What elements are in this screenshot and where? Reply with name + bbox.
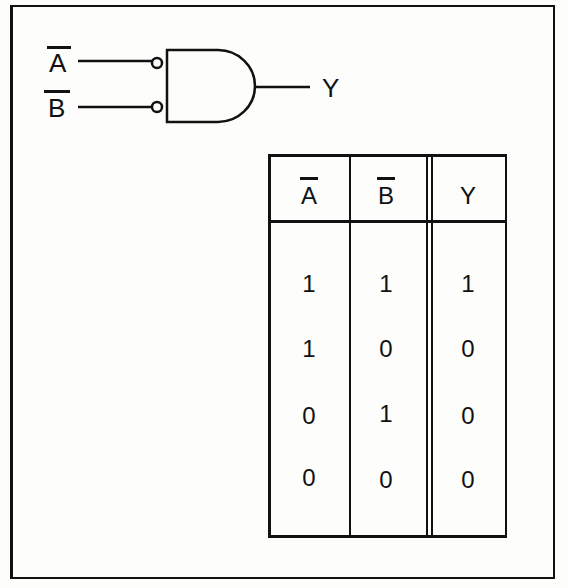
cell-r1-b: 1 bbox=[356, 270, 416, 298]
header-b-overbar bbox=[377, 177, 395, 180]
cell-r2-b: 0 bbox=[356, 335, 416, 363]
cell-r4-b: 0 bbox=[356, 466, 416, 494]
cell-r2-a: 1 bbox=[279, 335, 339, 363]
cell-r1-a: 1 bbox=[279, 270, 339, 298]
truth-table: A B Y 1 1 1 1 0 0 0 1 0 0 0 0 bbox=[268, 154, 507, 538]
header-b: B bbox=[356, 182, 416, 210]
output-y-label: Y bbox=[322, 75, 339, 101]
cell-r3-b: 1 bbox=[356, 400, 416, 428]
header-a: A bbox=[279, 182, 339, 210]
cell-r1-y: 1 bbox=[438, 270, 498, 298]
input-b-inversion-bubble bbox=[152, 102, 162, 112]
cell-r3-a: 0 bbox=[279, 402, 339, 430]
cell-r4-a: 0 bbox=[279, 464, 339, 492]
cell-r2-y: 0 bbox=[438, 335, 498, 363]
input-a-label: A bbox=[49, 50, 66, 76]
input-a-inversion-bubble bbox=[152, 58, 162, 68]
and-gate-body bbox=[167, 50, 255, 122]
cell-r3-y: 0 bbox=[438, 402, 498, 430]
cell-r4-y: 0 bbox=[438, 466, 498, 494]
header-y: Y bbox=[438, 182, 498, 210]
input-b-label: B bbox=[48, 95, 65, 121]
header-a-overbar bbox=[300, 177, 318, 180]
